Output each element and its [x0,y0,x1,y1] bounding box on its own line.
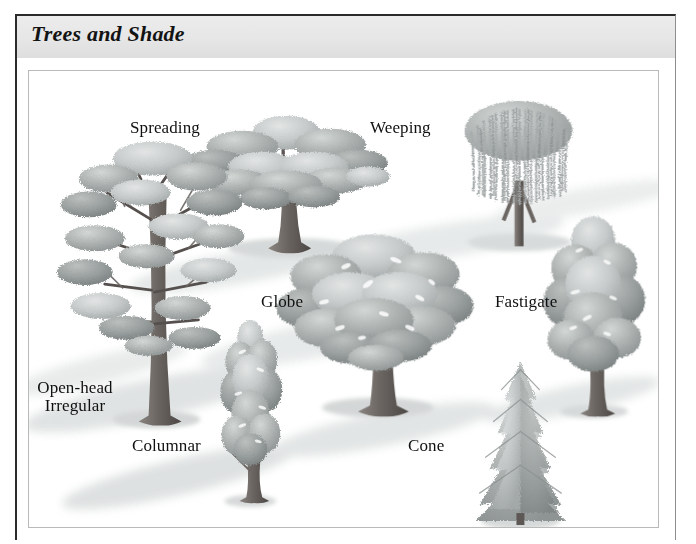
label-weeping: Weeping [370,119,431,137]
label-open-head-irregular: Open-head Irregular [28,379,123,414]
figure-title: Trees and Shade [31,21,185,47]
label-open-head-line2: Irregular [45,396,105,415]
label-globe: Globe [261,293,303,311]
tree-globe [276,234,473,417]
label-fastigate: Fastigate [495,293,557,311]
label-open-head-line1: Open-head [37,378,112,397]
label-columnar: Columnar [132,437,201,455]
illustration-stage: Spreading Weeping Globe Fastigate Open-h… [29,71,658,527]
figure-container: Trees and Shade [15,14,676,540]
tree-cone [476,362,566,527]
figure-header-bar: Trees and Shade [17,16,675,58]
illustration-panel: Spreading Weeping Globe Fastigate Open-h… [28,70,659,528]
trees-illustration [29,71,658,527]
label-cone: Cone [408,437,444,455]
label-spreading: Spreading [130,119,200,137]
